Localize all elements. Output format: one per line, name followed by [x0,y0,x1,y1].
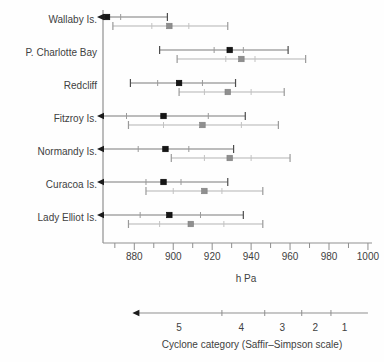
category-label: 4 [239,322,245,333]
x-tick-label: 880 [126,251,143,262]
chart-canvas: 8809009209409609801000h PaWallaby Is.P. … [0,0,384,362]
central-estimate-marker-dark [227,47,233,53]
category-label: 1 [342,322,348,333]
site-label: Fitzroy Is. [54,113,97,124]
x-tick-label: 980 [321,251,338,262]
central-estimate-marker-gray [200,122,206,128]
central-estimate-marker-dark [161,179,167,185]
category-axis-title: Cyclone category (Saffir–Simpson scale) [162,339,342,350]
x-tick-label: 900 [165,251,182,262]
central-estimate-marker-gray [202,188,208,194]
central-estimate-marker-gray [225,89,231,95]
central-estimate-marker-gray [188,221,194,227]
cyclone-intensity-figure: 8809009209409609801000h PaWallaby Is.P. … [0,0,384,362]
x-tick-label: 960 [282,251,299,262]
site-label: Redcliff [64,80,97,91]
offscale-left-arrow-icon [97,179,104,185]
offscale-left-arrow-icon [97,146,104,152]
central-estimate-marker-dark [163,146,169,152]
site-label: Wallaby Is. [48,14,97,25]
category-label: 2 [313,322,319,333]
category-axis-left-arrow-icon [132,310,139,316]
central-estimate-marker-dark [161,113,167,119]
site-label: Normandy Is. [38,146,97,157]
x-tick-label: 920 [204,251,221,262]
site-label: P. Charlotte Bay [25,47,97,58]
x-tick-label: 1000 [357,251,380,262]
central-estimate-marker-dark [104,14,110,20]
central-estimate-marker-dark [167,212,173,218]
central-estimate-marker-dark [176,80,182,86]
category-label: 5 [176,322,182,333]
site-label: Lady Elliot Is. [38,212,97,223]
x-tick-label: 940 [243,251,260,262]
central-estimate-marker-gray [239,56,245,62]
offscale-left-arrow-icon [97,212,104,218]
central-estimate-marker-gray [167,23,173,29]
x-axis-title: h Pa [236,273,257,284]
site-label: Curacoa Is. [46,179,97,190]
offscale-left-arrow-icon [97,14,104,20]
category-label: 3 [279,322,285,333]
central-estimate-marker-gray [227,155,233,161]
offscale-left-arrow-icon [97,113,104,119]
